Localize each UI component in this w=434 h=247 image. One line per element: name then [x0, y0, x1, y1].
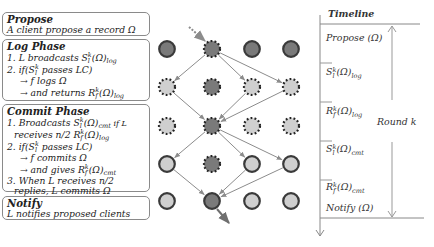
follower-node — [283, 41, 299, 57]
line-text: → f logs Ω — [20, 75, 67, 86]
timeline-step: Rkf(Ω)log — [326, 105, 362, 118]
follower-node — [283, 79, 299, 95]
follower-node — [159, 79, 175, 95]
client-request-arrow — [189, 27, 205, 41]
phase-step: A client propose a record Ω — [7, 25, 145, 36]
commit-phase-title: Commit Phase — [7, 106, 145, 117]
phase-step: → f logs Ω — [7, 76, 145, 87]
commit-phase-box: Commit Phase1. Broadcasts Skl(Ω)cmt if L… — [2, 104, 150, 192]
line-text: (Ω) — [99, 86, 114, 97]
line-text: passes LC) — [39, 141, 93, 152]
leader-node — [204, 118, 220, 134]
phase-step: L notifies proposed clients — [7, 209, 145, 220]
notify-arrow — [217, 209, 229, 223]
timeline-step: Skl(Ω)log — [326, 66, 362, 79]
line-text: (Ω) — [336, 66, 351, 77]
message-arrow — [174, 93, 205, 120]
line-text: R — [326, 105, 333, 116]
timeline-step: Rkf(Ω)cmt — [326, 181, 365, 194]
subscript: log — [351, 72, 361, 80]
phase-step: 1. Broadcasts Skl(Ω)cmt if L — [7, 117, 145, 129]
follower-node — [244, 79, 260, 95]
line-text: → and returns R — [20, 86, 95, 97]
line-text: Propose (Ω) — [326, 32, 383, 43]
round-label: Round k — [377, 116, 416, 127]
log-phase-title: Log Phase — [7, 41, 145, 52]
node-grid — [159, 41, 299, 209]
timeline-step: Propose (Ω) — [326, 32, 383, 43]
phase-step: 1. L broadcasts Skl(Ω)log — [7, 52, 145, 64]
message-arrow — [219, 93, 245, 119]
line-text: 1. L broadcasts S — [7, 52, 88, 63]
line-text: A client propose a record Ω — [7, 24, 136, 35]
line-text: (Ω) — [84, 117, 99, 128]
notify-phase-box: NotifyL notifies proposed clients — [2, 196, 150, 220]
line-text: (Ω) — [84, 129, 99, 140]
subscript: log — [107, 57, 117, 65]
line-text: R — [326, 181, 333, 192]
subscript: log — [99, 134, 109, 142]
follower-node — [244, 193, 260, 209]
leader-node — [204, 79, 220, 95]
follower-node — [283, 156, 299, 172]
line-text: (Ω) — [337, 105, 352, 116]
follower-node — [159, 41, 175, 57]
line-text: Notify (Ω) — [326, 202, 373, 213]
line-text: 2. if(S — [7, 64, 35, 75]
timeline-title: Timeline — [328, 8, 374, 19]
follower-node — [159, 193, 175, 209]
follower-node — [159, 156, 175, 172]
subscript: log — [114, 92, 124, 100]
leader-node — [204, 156, 220, 172]
timeline-step: Skl(Ω)cmt — [326, 143, 364, 156]
leader-node — [204, 41, 220, 57]
follower-node — [244, 118, 260, 134]
line-text: if L — [111, 119, 127, 128]
phase-step: receives n/2 Rkf(Ω)log — [7, 129, 145, 141]
line-text: (Ω) — [92, 52, 107, 63]
subscript: cmt — [352, 187, 364, 195]
line-text: (Ω) — [337, 181, 352, 192]
line-text: → f commits Ω — [20, 152, 87, 163]
message-arrow — [175, 55, 205, 81]
subscript: cmt — [351, 149, 363, 157]
phase-step: → and returns Rkf(Ω)log — [7, 87, 145, 99]
line-text: → and gives R — [20, 163, 85, 174]
follower-node — [283, 118, 299, 134]
line-text: 2. if(S — [7, 141, 35, 152]
follower-node — [283, 193, 299, 209]
line-text: 1. Broadcasts S — [7, 117, 80, 128]
line-text: 3. When L receives n/2 — [7, 175, 114, 186]
log-phase-box: Log Phase1. L broadcasts Skl(Ω)log2. if(… — [2, 39, 150, 101]
subscript: log — [352, 111, 362, 119]
follower-node — [244, 156, 260, 172]
leader-node — [204, 193, 220, 209]
line-text: L notifies proposed clients — [7, 208, 130, 219]
message-arrows — [174, 27, 283, 223]
line-text: (Ω) — [89, 163, 104, 174]
timeline-step: Notify (Ω) — [326, 202, 373, 213]
line-text: (Ω) — [336, 143, 351, 154]
line-text: replies, L commits Ω — [14, 185, 111, 196]
message-arrow — [174, 170, 204, 195]
line-text: receives n/2 R — [14, 129, 80, 140]
message-arrow — [175, 132, 205, 158]
follower-node — [159, 118, 175, 134]
message-arrow — [219, 170, 245, 194]
line-text: passes LC) — [39, 64, 93, 75]
follower-node — [244, 41, 260, 57]
propose-phase-box: ProposeA client propose a record Ω — [2, 12, 150, 36]
